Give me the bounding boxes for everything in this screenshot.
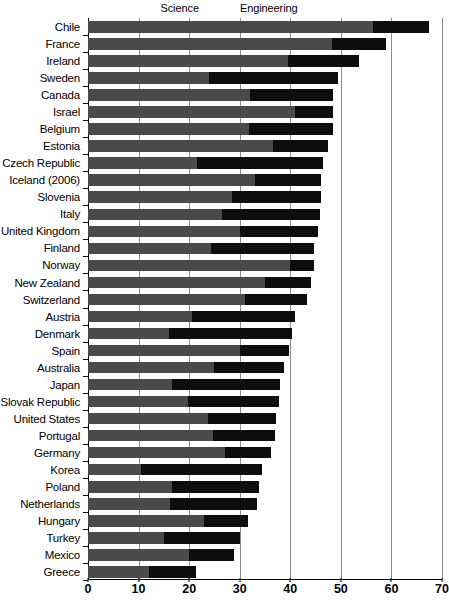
bar-segment-science — [88, 379, 172, 391]
category-label: Turkey — [46, 529, 80, 547]
bar-row — [88, 478, 442, 496]
bar-row — [88, 154, 442, 172]
bar-segment-engineering — [172, 481, 259, 493]
bar-segment-engineering — [214, 362, 283, 374]
category-label: Korea — [50, 461, 80, 479]
bar-segment-engineering — [204, 515, 247, 527]
bar-row — [88, 222, 442, 240]
bar-row — [88, 325, 442, 343]
x-tick-mark — [340, 578, 341, 582]
bar-segment-science — [88, 549, 189, 561]
stacked-bar — [88, 413, 276, 425]
bar-segment-engineering — [222, 209, 320, 221]
stacked-bar — [88, 55, 359, 67]
legend-label-engineering: Engineering — [240, 3, 298, 14]
bar-row — [88, 86, 442, 104]
bar-segment-science — [88, 89, 250, 101]
category-label: Ireland — [46, 52, 80, 70]
bar-row — [88, 52, 442, 70]
category-label: Switzerland — [23, 290, 80, 308]
stacked-bar — [88, 532, 240, 544]
stacked-bar — [88, 311, 295, 323]
bar-segment-engineering — [373, 21, 429, 33]
bar-row — [88, 256, 442, 274]
category-label: New Zealand — [14, 273, 80, 291]
bar-segment-engineering — [164, 532, 240, 544]
stacked-bar — [88, 243, 314, 255]
bar-row — [88, 393, 442, 411]
bar-segment-science — [88, 174, 255, 186]
category-label: Japan — [50, 376, 80, 394]
bar-row — [88, 359, 442, 377]
category-axis: ChileFranceIrelandSwedenCanadaIsraelBelg… — [0, 18, 88, 580]
bar-segment-science — [88, 532, 164, 544]
bar-segment-science — [88, 311, 192, 323]
bar-segment-engineering — [232, 191, 321, 203]
bar-row — [88, 35, 442, 53]
stacked-bar — [88, 72, 338, 84]
stacked-bar — [88, 140, 328, 152]
bar-segment-engineering — [240, 345, 289, 357]
square-swatch-icon — [149, 5, 156, 12]
bar-segment-science — [88, 140, 273, 152]
category-label: Slovenia — [37, 188, 80, 206]
bar-segment-engineering — [192, 311, 296, 323]
legend-label-science: Science — [160, 3, 198, 14]
category-label: Belgium — [40, 120, 80, 138]
category-label: France — [45, 35, 80, 53]
bar-row — [88, 427, 442, 445]
bar-segment-science — [88, 209, 222, 221]
bar-segment-science — [88, 72, 209, 84]
x-tick-label: 40 — [283, 582, 297, 596]
stacked-bar — [88, 549, 234, 561]
x-tick-label: 60 — [384, 582, 398, 596]
bar-segment-engineering — [188, 396, 279, 408]
stacked-bar — [88, 123, 333, 135]
bar-segment-engineering — [211, 243, 314, 255]
bar-segment-science — [88, 191, 232, 203]
stacked-bar — [88, 209, 320, 221]
x-tick-mark — [290, 578, 291, 582]
stacked-bar — [88, 89, 333, 101]
category-label: Denmark — [35, 325, 80, 343]
bar-segment-science — [88, 396, 188, 408]
bar-segment-engineering — [189, 549, 234, 561]
x-tick-mark — [88, 578, 89, 582]
category-label: Mexico — [45, 546, 80, 564]
bar-segment-science — [88, 55, 288, 67]
bar-segment-science — [88, 226, 240, 238]
x-tick-mark — [138, 578, 139, 582]
bar-segment-engineering — [332, 38, 386, 50]
stacked-bar — [88, 38, 386, 50]
bar-segment-science — [88, 447, 225, 459]
category-label: Germany — [34, 444, 80, 462]
category-label: Chile — [55, 18, 80, 36]
bar-segment-engineering — [265, 277, 311, 289]
bar-segment-engineering — [169, 328, 292, 340]
category-label: Czech Republic — [2, 154, 80, 172]
stacked-bar — [88, 515, 248, 527]
bar-segment-science — [88, 260, 290, 272]
bar-segment-science — [88, 157, 197, 169]
bar-segment-engineering — [245, 294, 307, 306]
bar-segment-engineering — [149, 566, 196, 578]
bar-segment-science — [88, 566, 149, 578]
category-label: Greece — [43, 563, 80, 581]
stacked-bar — [88, 174, 321, 186]
x-tick-label: 20 — [182, 582, 196, 596]
chart-legend: Science Engineering — [0, 0, 447, 16]
bar-segment-science — [88, 498, 170, 510]
bar-segment-science — [88, 294, 245, 306]
category-label: Netherlands — [20, 495, 80, 513]
bar-segment-engineering — [295, 106, 332, 118]
bar-segment-engineering — [141, 464, 262, 476]
bar-segment-science — [88, 362, 214, 374]
bar-segment-science — [88, 38, 332, 50]
bar-segment-engineering — [273, 140, 329, 152]
stacked-bar — [88, 157, 323, 169]
bar-row — [88, 308, 442, 326]
stacked-bar — [88, 191, 321, 203]
category-label: Slovak Republic — [1, 393, 80, 411]
bar-row — [88, 546, 442, 564]
